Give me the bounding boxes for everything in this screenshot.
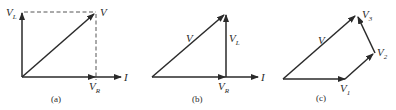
panel-b: V VL VR I (b) xyxy=(152,15,266,104)
v-vector-arrow xyxy=(152,15,224,77)
phasor-diagram-figure: VL V VR I (a) V VL VR I (b) V V1 V2 V3 (… xyxy=(0,0,396,110)
v-vector-arrow xyxy=(22,14,94,77)
panel-c: V V1 V2 V3 (c) xyxy=(283,8,388,103)
label-vl: VL xyxy=(229,32,240,47)
label-v3: V3 xyxy=(362,8,373,23)
label-v1: V1 xyxy=(340,82,350,97)
panel-a: VL V VR I (a) xyxy=(6,6,129,104)
caption-c: (c) xyxy=(316,93,326,103)
label-v: V xyxy=(318,34,326,46)
label-v: V xyxy=(100,6,108,18)
caption-b: (b) xyxy=(192,94,203,104)
caption-a: (a) xyxy=(51,94,61,104)
v3-vector-arrow xyxy=(358,17,375,53)
label-i: I xyxy=(260,71,266,83)
label-v2: V2 xyxy=(377,46,388,61)
v2-vector-arrow xyxy=(345,54,373,79)
v-resultant-arrow xyxy=(283,16,355,79)
label-i: I xyxy=(123,71,129,83)
label-vr: VR xyxy=(218,80,230,95)
label-vl: VL xyxy=(6,6,17,21)
label-vr: VR xyxy=(89,80,101,95)
